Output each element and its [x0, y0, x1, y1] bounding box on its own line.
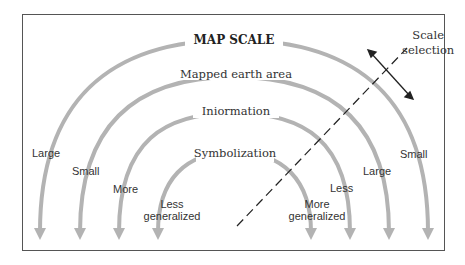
label-large-right: Large [363, 165, 391, 177]
arrow-down-icon [305, 228, 317, 240]
label-mapped-earth-area: Mapped earth area [180, 67, 292, 81]
scale-selection-label: Scale selection [402, 28, 454, 58]
arrow-down-icon [344, 228, 356, 240]
map-scale-diagram: MAP SCALE Mapped earth area Iniormation … [0, 0, 465, 265]
arrow-down-icon [152, 228, 164, 240]
arrow-up-left-icon [368, 50, 376, 57]
label-more-left: More [113, 183, 138, 195]
arrow-down-icon [74, 228, 86, 240]
label-more-generalized: More generalized [285, 198, 349, 222]
label-information: Iniormation [202, 104, 271, 118]
arrow-down-right-icon [405, 92, 413, 99]
arrow-down-icon [422, 228, 434, 240]
title-map-scale: MAP SCALE [194, 33, 275, 47]
scale-selection-line2: selection [402, 43, 454, 58]
label-less-right: Less [330, 182, 353, 194]
label-small-right: Small [400, 148, 428, 160]
scale-selection-line1: Scale [402, 28, 454, 43]
label-symbolization: Symbolization [194, 146, 277, 160]
label-large-left: Large [32, 147, 60, 159]
arrow-down-icon [383, 228, 395, 240]
arrow-down-icon [34, 228, 46, 240]
label-less-generalized: Less generalized [140, 198, 204, 222]
label-small-left: Small [72, 165, 100, 177]
arrow-down-icon [113, 228, 125, 240]
arrowheads [34, 228, 434, 240]
